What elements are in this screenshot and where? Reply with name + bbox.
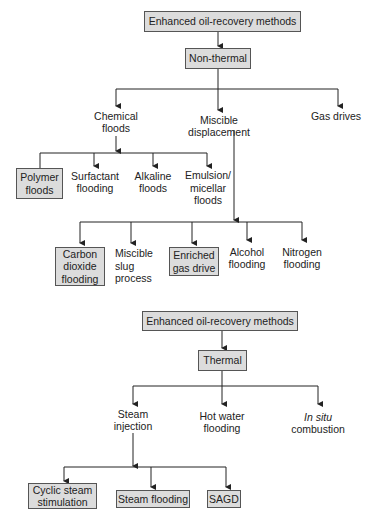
- thermal-box: Thermal: [198, 350, 247, 371]
- surfactant-flooding-label: Surfactant flooding: [68, 168, 122, 196]
- alkaline-floods-label: Alkaline floods: [128, 168, 178, 196]
- bottom-root-box: Enhanced oil-recovery methods: [142, 311, 298, 331]
- eor-methods-diagram: Enhanced oil-recovery methods Non-therma…: [0, 0, 365, 518]
- carbon-dioxide-flooding-box: Carbon dioxide flooding: [55, 247, 105, 286]
- in-situ-combustion-label: In situ combustion: [284, 408, 352, 438]
- enriched-gas-drive-box: Enriched gas drive: [169, 247, 219, 276]
- gas-drives-label: Gas drives: [306, 109, 365, 123]
- top-root-box: Enhanced oil-recovery methods: [144, 11, 301, 32]
- steam-injection-label: Steam injection: [103, 406, 163, 434]
- miscible-slug-process-label: Miscible slug process: [115, 247, 161, 285]
- cyclic-steam-stimulation-box: Cyclic steam stimulation: [28, 483, 97, 509]
- polymer-floods-box: Polymer floods: [16, 168, 63, 199]
- emulsion-micellar-floods-label: Emulsion/ micellar floods: [180, 168, 236, 208]
- alcohol-flooding-label: Alcohol flooding: [222, 244, 272, 272]
- nitrogen-flooding-label: Nitrogen flooding: [277, 244, 327, 272]
- miscible-displacement-label: Miscible displacement: [184, 112, 254, 140]
- non-thermal-box: Non-thermal: [185, 48, 251, 69]
- in-situ-text: In situ: [304, 411, 332, 424]
- steam-flooding-box: Steam flooding: [116, 490, 190, 508]
- hot-water-flooding-label: Hot water flooding: [188, 408, 256, 436]
- chemical-floods-label: Chemical floods: [86, 108, 146, 136]
- combustion-text: combustion: [291, 423, 345, 436]
- sagd-box: SAGD: [207, 490, 241, 508]
